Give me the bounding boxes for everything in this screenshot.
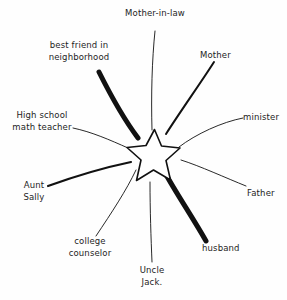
- label-mother-in-law: Mother-in-law: [105, 8, 205, 20]
- connector-mother: [166, 62, 214, 134]
- label-best-friend: best friend in neighborhood: [32, 40, 126, 63]
- connector-husband: [164, 171, 206, 241]
- connector-minister: [179, 118, 243, 147]
- label-husband: husband: [202, 243, 262, 255]
- connector-uncle-jack: [150, 182, 152, 262]
- label-college-counselor: college counselor: [54, 236, 126, 259]
- connector-mother-in-law: [152, 31, 155, 130]
- label-father: Father: [247, 188, 287, 200]
- diagram-canvas: Mother-in-law Mother minister Father hus…: [0, 0, 287, 300]
- connector-best-friend: [99, 72, 138, 138]
- connector-college-counselor: [96, 170, 136, 236]
- label-mother: Mother: [200, 50, 260, 62]
- label-uncle-jack: Uncle Jack.: [122, 265, 182, 288]
- connector-father: [181, 160, 246, 186]
- connector-math-teacher: [73, 128, 128, 148]
- label-aunt-sally: Aunt Sally: [12, 180, 56, 203]
- label-math-teacher: High school math teacher: [6, 110, 78, 133]
- label-minister: minister: [243, 112, 287, 124]
- connector-aunt-sally: [48, 162, 131, 186]
